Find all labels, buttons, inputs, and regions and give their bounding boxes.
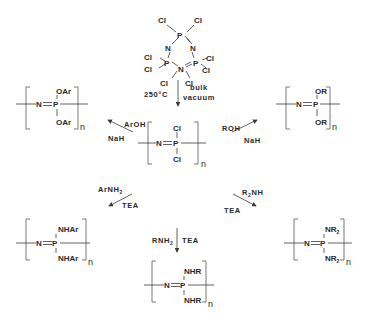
reagent-roh: ROH	[222, 124, 240, 133]
reagent-tea: TEA	[224, 206, 241, 215]
backbone-n: N	[304, 239, 310, 248]
step-arylamino: ArNH2 TEA	[98, 185, 139, 210]
atom-cl: Cl	[158, 16, 166, 25]
cyclotriphosphazene: Cl Cl P N N P P N Cl Cl Cl Cl Cl Cl	[144, 16, 214, 88]
atom-cl: Cl	[144, 53, 152, 62]
substituent-bottom: NHR	[184, 296, 202, 305]
poly-dialkylaminophosphazene: N P NR2 NR2 n	[284, 219, 352, 267]
poly-alkylaminophosphazene: N P NHR NHR n	[144, 261, 214, 309]
ring-opening-step: 250°C bulk vacuum	[144, 80, 215, 106]
atom-cl: Cl	[160, 79, 168, 88]
backbone-p: P	[180, 281, 186, 290]
repeat-n: n	[208, 299, 213, 309]
backbone-p: P	[53, 100, 59, 109]
atom-p: P	[193, 59, 199, 68]
backbone-n: N	[36, 239, 42, 248]
substituent-top: OR	[315, 87, 327, 96]
repeat-n: n	[332, 122, 337, 132]
reagent-rnh2: RNH2	[152, 236, 173, 246]
condition-bulk-label: bulk	[190, 83, 208, 92]
atom-n: N	[178, 65, 184, 74]
atom-cl: Cl	[144, 65, 152, 74]
atom-cl: Cl	[202, 66, 210, 75]
reagent-aroh: ArOH	[124, 120, 146, 129]
backbone-p: P	[52, 239, 58, 248]
backbone-n: N	[296, 100, 302, 109]
reagent-arnh2-sub: 2	[120, 189, 123, 195]
backbone-n: N	[164, 281, 170, 290]
reagent-nah: NaH	[108, 134, 125, 143]
temperature-label: 250°C	[144, 90, 168, 99]
backbone-p: P	[313, 100, 319, 109]
repeat-n: n	[346, 257, 351, 267]
substituent-top: OAr	[56, 87, 71, 96]
atom-p: P	[164, 59, 170, 68]
substituent-bottom: OR	[315, 118, 327, 127]
backbone-p: P	[173, 139, 179, 148]
poly-aryloxyphosphazene: N P OAr OAr n	[16, 87, 88, 132]
atom-n: N	[165, 44, 171, 53]
atom-cl: Cl	[206, 54, 214, 63]
substituent-bottom: NHAr	[58, 254, 78, 263]
substituent-top: NHAr	[58, 225, 78, 234]
step-alkoxy: ROH NaH	[222, 120, 261, 145]
atom-p: P	[177, 31, 183, 40]
reagent-arnh2: ArNH2	[98, 185, 123, 195]
condition-vacuum-label: vacuum	[183, 93, 215, 102]
substituent-top: NR2	[325, 225, 340, 235]
backbone-n: N	[36, 100, 42, 109]
step-alkylamino: RNH2 TEA	[152, 228, 199, 252]
substituent-top: Cl	[173, 124, 181, 133]
substituent-bottom: OAr	[56, 118, 71, 127]
repeat-n: n	[201, 159, 206, 169]
repeat-n: n	[80, 122, 85, 132]
atom-cl: Cl	[194, 16, 202, 25]
repeat-n: n	[88, 257, 93, 267]
poly-arylaminophosphazene: N P NHAr NHAr n	[16, 219, 93, 267]
reaction-scheme: Cl Cl P N N P P N Cl Cl Cl Cl Cl Cl 250°…	[0, 0, 365, 334]
reagent-tea: TEA	[122, 201, 139, 210]
polydichlorophosphazene: N P Cl Cl n	[138, 122, 206, 169]
reagent-tea: TEA	[182, 236, 199, 245]
reagent-r2nh: R2NH	[242, 188, 263, 198]
poly-alkoxyphosphazene: N P OR OR n	[276, 87, 340, 132]
atom-n: N	[190, 44, 196, 53]
step-dialkylamino: R2NH TEA	[224, 188, 263, 215]
reagent-nah: NaH	[244, 136, 261, 145]
reagent-arnh2-main: ArNH	[98, 185, 120, 194]
backbone-p: P	[320, 239, 326, 248]
substituent-top: NHR	[184, 267, 202, 276]
backbone-n: N	[156, 139, 162, 148]
substituent-bottom: NR2	[325, 254, 340, 264]
step-aryloxy: ArOH NaH	[108, 120, 146, 143]
substituent-bottom: Cl	[173, 155, 181, 164]
